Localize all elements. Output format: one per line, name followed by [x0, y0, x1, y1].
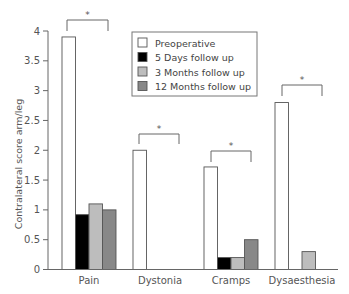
- bar-dysaesthesia-preoperative: [275, 103, 289, 270]
- bar-pain-5-days-follow-up: [76, 215, 90, 270]
- bar-cramps-5-days-follow-up: [218, 258, 232, 270]
- bar-pain-preoperative: [62, 37, 76, 270]
- y-axis-label: Contralateral score arm/leg: [13, 99, 24, 229]
- y-tick-label: 1: [34, 204, 40, 215]
- bar-cramps-3-months-follow-up: [231, 258, 245, 270]
- y-tick-label: 2: [34, 145, 40, 156]
- bar-dystonia-preoperative: [133, 150, 147, 269]
- x-category-label: Cramps: [212, 275, 251, 286]
- y-tick-label: 4: [34, 26, 40, 37]
- y-axis: 00.511.522.533.54: [24, 26, 48, 276]
- x-category-label: Dystonia: [138, 275, 182, 286]
- significance-bracket-cramps: [211, 151, 251, 162]
- legend-swatch: [138, 38, 147, 47]
- significance-star: *: [229, 141, 234, 151]
- significance-star: *: [300, 75, 305, 85]
- y-tick-label: 3: [34, 85, 40, 96]
- legend-label: 3 Months follow up: [155, 67, 245, 78]
- x-category-label: Pain: [79, 275, 100, 286]
- bar-pain-3-months-follow-up: [89, 204, 103, 270]
- legend-label: Preoperative: [155, 38, 216, 49]
- significance-star: *: [85, 10, 90, 20]
- y-tick-label: 1.5: [24, 175, 40, 186]
- bar-dysaesthesia-3-months-follow-up: [302, 252, 316, 270]
- bar-cramps-12-months-follow-up: [245, 240, 259, 270]
- x-category-label: Dysaesthesia: [269, 275, 336, 286]
- legend-swatch: [138, 53, 147, 62]
- bar-cramps-preoperative: [204, 167, 218, 270]
- significance-bracket-dystonia: [139, 134, 179, 144]
- legend-swatch: [138, 82, 147, 91]
- significance-star: *: [157, 124, 162, 134]
- x-axis: PainDystoniaCrampsDysaesthesia: [48, 270, 338, 287]
- legend-label: 5 Days follow up: [155, 52, 234, 63]
- bar-pain-12-months-follow-up: [103, 210, 117, 270]
- y-tick-label: 0: [34, 264, 40, 275]
- legend: Preoperative5 Days follow up3 Months fol…: [132, 32, 257, 96]
- bar-chart: Contralateral score arm/leg 00.511.522.5…: [0, 0, 349, 294]
- significance-bracket-dysaesthesia: [282, 85, 322, 96]
- significance-bracket-pain: [67, 20, 108, 31]
- y-tick-label: 0.5: [24, 234, 40, 245]
- legend-swatch: [138, 67, 147, 76]
- legend-label: 12 Months follow up: [155, 81, 251, 92]
- y-tick-label: 2.5: [24, 115, 40, 126]
- y-tick-label: 3.5: [24, 55, 40, 66]
